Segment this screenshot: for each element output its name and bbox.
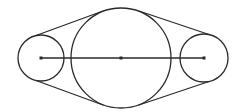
- belt-lower-left: [36, 81, 103, 106]
- center-point-marker: [40, 57, 43, 60]
- center-point-marker: [120, 57, 123, 60]
- belt-pulley-diagram: [0, 0, 240, 112]
- belt-lower-right: [139, 82, 209, 106]
- center-point-marker: [203, 57, 206, 60]
- belt-upper-right: [139, 11, 209, 35]
- belt-upper-left: [36, 11, 103, 36]
